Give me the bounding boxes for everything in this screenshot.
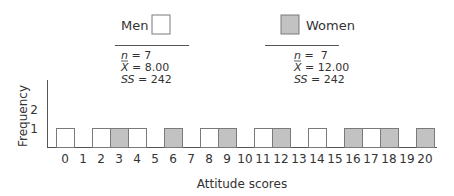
x-tick-label: 16 xyxy=(345,152,360,166)
x-tick-label: 17 xyxy=(363,152,378,166)
x-tick-label: 3 xyxy=(115,152,123,166)
x-tick-label: 13 xyxy=(291,152,306,166)
x-tick-label: 2 xyxy=(97,152,105,166)
x-tick-label: 19 xyxy=(399,152,414,166)
x-tick-label: 6 xyxy=(169,152,177,166)
x-tick-label: 10 xyxy=(237,152,252,166)
x-tick-label: 18 xyxy=(381,152,396,166)
women-ss-value: = 242 xyxy=(311,73,345,86)
x-tick-label: 12 xyxy=(273,152,288,166)
men-bar xyxy=(93,129,111,148)
x-tick-label: 9 xyxy=(223,152,231,166)
legend-men-swatch xyxy=(152,15,170,34)
x-tick-label: 7 xyxy=(187,152,195,166)
men-bar xyxy=(57,129,75,148)
women-bar xyxy=(111,129,129,148)
x-tick-label: 1 xyxy=(79,152,87,166)
y-tick-labels: 12 xyxy=(30,103,38,136)
women-stats: n = 7 X = 12.00 SS = 242 xyxy=(293,49,349,86)
x-tick-label: 4 xyxy=(133,152,141,166)
x-axis-label: Attitude scores xyxy=(197,177,287,191)
y-tick-label: 1 xyxy=(30,122,38,136)
x-tick-label: 20 xyxy=(417,152,432,166)
legend-women-label: Women xyxy=(306,18,355,33)
x-tick-label: 14 xyxy=(309,152,324,166)
legend-men-label: Men xyxy=(121,18,148,33)
svg-text:SS = 242: SS = 242 xyxy=(294,73,345,86)
women-bar xyxy=(417,129,435,148)
women-ss-label: SS xyxy=(294,73,308,86)
men-bar xyxy=(255,129,273,148)
x-tick-label: 0 xyxy=(61,152,69,166)
men-bar xyxy=(129,129,147,148)
x-tick-label: 15 xyxy=(327,152,342,166)
y-axis-label: Frequency xyxy=(16,85,30,147)
men-bar xyxy=(201,129,219,148)
women-bar xyxy=(219,129,237,148)
bars xyxy=(57,129,435,148)
men-stats: n = 7 X = 8.00 SS = 242 xyxy=(120,49,172,86)
x-tick-label: 11 xyxy=(255,152,270,166)
men-ss-value: = 242 xyxy=(138,73,172,86)
men-bar xyxy=(363,129,381,148)
x-tick-label: 5 xyxy=(151,152,159,166)
chart: Men n = 7 X = 8.00 SS = 242 Women n = 7 … xyxy=(0,0,454,196)
women-bar xyxy=(273,129,291,148)
x-tick-labels: 01234567891011121314151617181920 xyxy=(61,152,432,166)
men-ss-label: SS xyxy=(121,73,135,86)
women-bar xyxy=(165,129,183,148)
men-bar xyxy=(309,129,327,148)
women-bar xyxy=(345,129,363,148)
x-tick-label: 8 xyxy=(205,152,213,166)
svg-text:SS = 242: SS = 242 xyxy=(121,73,172,86)
y-tick-label: 2 xyxy=(30,103,38,117)
legend-women-swatch xyxy=(281,15,299,34)
women-bar xyxy=(381,129,399,148)
